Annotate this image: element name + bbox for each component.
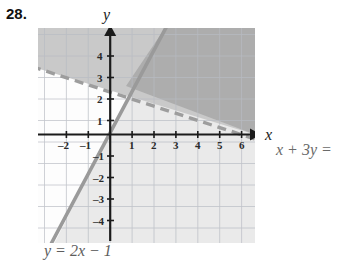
x-axis-label: x: [265, 126, 272, 144]
y-tick-label: –2: [93, 173, 104, 184]
x-tick-label: –2: [58, 140, 69, 151]
figure-canvas: 28. y x y = 2x − 1 x + 3y =: [0, 0, 338, 267]
y-tick-label: –4: [93, 216, 104, 227]
x-tick-label: 3: [173, 140, 179, 151]
x-tick-label: 4: [195, 140, 201, 151]
x-tick-label: 2: [151, 140, 157, 151]
solid-line-equation-caption: y = 2x − 1: [44, 242, 112, 260]
dashed-line-equation-caption: x + 3y =: [276, 141, 332, 159]
x-tick-label: 5: [217, 140, 223, 151]
y-tick-label: 4: [97, 51, 103, 62]
y-tick-label: 2: [97, 94, 103, 105]
y-axis-label: y: [103, 6, 110, 24]
y-tick-label: 3: [97, 73, 103, 84]
problem-number: 28.: [6, 5, 27, 22]
y-tick-label: 1: [97, 116, 103, 127]
coordinate-plane: –2 –1 1 2 3 4 5 6 4 3 2 1 –1 –2 –3 –4: [38, 28, 255, 243]
x-tick-label: –1: [80, 140, 91, 151]
x-tick-label: 1: [129, 140, 135, 151]
x-tick-label: 6: [239, 140, 245, 151]
y-tick-label: –3: [93, 194, 104, 205]
y-tick-label: –1: [93, 151, 104, 162]
